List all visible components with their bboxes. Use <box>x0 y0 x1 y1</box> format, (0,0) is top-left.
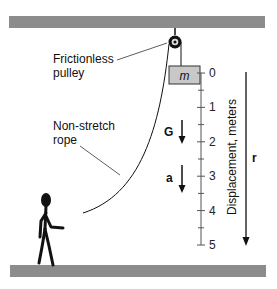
acceleration-arrow-icon <box>179 165 186 193</box>
acceleration-label: a <box>166 171 173 185</box>
tick-label-1: 1 <box>209 100 216 114</box>
tick-label-4: 4 <box>209 204 216 218</box>
tick-label-0: 0 <box>209 66 216 80</box>
rope-leader-line <box>80 146 120 175</box>
pulley-leader-line <box>117 43 167 60</box>
ceiling-bar <box>9 16 265 28</box>
pulley-label-line1: Frictionless <box>53 52 114 66</box>
displacement-vector-label: r <box>252 151 257 165</box>
tick-label-5: 5 <box>209 238 216 252</box>
tick-label-3: 3 <box>209 169 216 183</box>
pulley-label-line2: pulley <box>53 66 84 80</box>
person-icon <box>39 193 63 265</box>
gravity-arrow-icon <box>179 120 186 144</box>
displacement-arrow-icon <box>243 72 250 246</box>
tick-label-2: 2 <box>209 135 216 149</box>
axis-title: Displacement, meters <box>225 99 239 215</box>
rope-label-line2: rope <box>53 133 77 147</box>
rope-label-line1: Non-stretch <box>53 119 115 133</box>
floor-bar <box>10 265 266 277</box>
mass-label: m <box>180 69 190 83</box>
displacement-scale <box>197 73 205 245</box>
pulley-icon <box>169 36 182 49</box>
gravity-label: G <box>164 125 173 139</box>
pulley-diagram: m Frictionless pulley Non-stretch rope 0… <box>0 0 277 289</box>
